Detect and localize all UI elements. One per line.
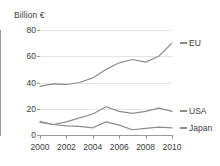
y-tick-label: 60 xyxy=(10,51,36,61)
plot-area xyxy=(40,30,172,135)
x-tick-mark xyxy=(66,136,67,139)
x-tick-label: 2010 xyxy=(157,142,187,152)
x-axis-line xyxy=(40,135,173,136)
y-tick-label: 0 xyxy=(10,130,36,140)
y-axis-title: Billion € xyxy=(14,10,45,20)
y-tick-label: 20 xyxy=(10,104,36,114)
y-axis-line xyxy=(0,30,1,136)
legend-swatch-icon xyxy=(180,127,187,129)
y-tick-label: 40 xyxy=(10,78,36,88)
x-tick-mark xyxy=(40,136,41,139)
line-chart: Billion € 020406080 20002002200420062008… xyxy=(0,0,220,166)
legend-swatch-icon xyxy=(180,42,187,44)
series-lines xyxy=(40,30,172,135)
x-tick-mark xyxy=(93,136,94,139)
legend-label: USA xyxy=(189,106,206,116)
legend-label: EU xyxy=(189,38,201,48)
legend-swatch-icon xyxy=(180,110,187,112)
legend-label: Japan xyxy=(189,123,212,133)
legend-item-usa[interactable]: USA xyxy=(180,106,206,116)
x-tick-mark xyxy=(119,136,120,139)
legend-item-japan[interactable]: Japan xyxy=(180,123,212,133)
series-line-eu xyxy=(40,43,172,86)
x-tick-mark xyxy=(172,136,173,139)
legend-item-eu[interactable]: EU xyxy=(180,38,201,48)
x-tick-mark xyxy=(146,136,147,139)
y-tick-label: 80 xyxy=(10,25,36,35)
